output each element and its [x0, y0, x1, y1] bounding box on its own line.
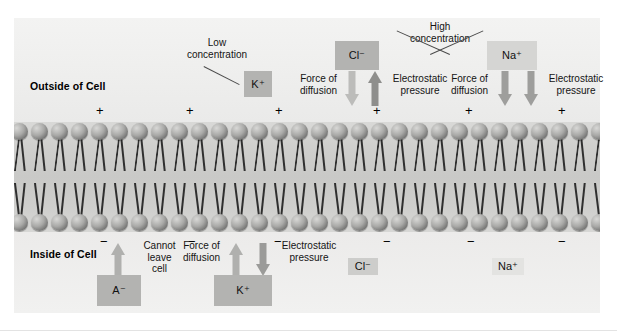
lipid-head	[51, 123, 68, 140]
arrow-electrostatic-pressure-potassium-inside	[255, 243, 271, 276]
lipid-tail	[394, 138, 400, 171]
lipid-tail	[20, 138, 25, 171]
lipid-tail	[194, 138, 200, 171]
lipid-tail	[300, 183, 305, 216]
lipid-tail	[274, 138, 280, 171]
lipid-tail	[514, 183, 520, 216]
phospholipid	[430, 122, 450, 177]
lipid-head	[411, 214, 428, 231]
phospholipid	[590, 122, 600, 177]
phospholipid-bilayer	[14, 122, 600, 232]
lipid-tail	[160, 138, 165, 171]
electrostatic-pressure-label-sodium: Electrostatic pressure	[540, 73, 612, 96]
lipid-tail	[500, 183, 505, 216]
lipid-tail	[394, 183, 400, 216]
lipid-tail	[120, 183, 125, 216]
lipid-tail	[360, 138, 365, 171]
lipid-head	[591, 123, 600, 140]
lipid-tail	[594, 138, 600, 171]
lipid-head	[391, 214, 408, 231]
phospholipid	[190, 177, 210, 232]
lipid-head	[151, 214, 168, 231]
phospholipid	[110, 122, 130, 177]
negative-charge-marker: −	[100, 237, 108, 247]
lipid-head	[351, 214, 368, 231]
lipid-tail	[434, 183, 440, 216]
phospholipid	[570, 177, 590, 232]
lipid-head	[271, 214, 288, 231]
phospholipid	[150, 122, 170, 177]
lipid-tail	[334, 138, 340, 171]
lipid-tail	[154, 183, 160, 216]
phospholipid	[330, 177, 350, 232]
lipid-head	[291, 123, 308, 140]
lipid-tail	[474, 138, 480, 171]
lipid-tail	[480, 138, 485, 171]
lipid-head	[351, 123, 368, 140]
phospholipid	[90, 177, 110, 232]
arrow-cannot-leave-cell-anion	[110, 243, 126, 276]
lipid-head	[571, 214, 588, 231]
phospholipid	[390, 122, 410, 177]
lipid-tail	[320, 138, 325, 171]
phospholipid	[190, 122, 210, 177]
phospholipid	[470, 177, 490, 232]
lipid-head	[71, 123, 88, 140]
lipid-tail	[560, 138, 565, 171]
phospholipid	[410, 177, 430, 232]
lipid-tail	[554, 138, 560, 171]
lipid-tail	[454, 183, 460, 216]
phospholipid	[490, 122, 510, 177]
lipid-head	[391, 123, 408, 140]
ion-box-potassium-inside: K⁺	[214, 275, 272, 306]
phospholipid	[270, 122, 290, 177]
lipid-tail	[534, 183, 540, 216]
lipid-tail	[214, 138, 220, 171]
lipid-tail	[580, 183, 585, 216]
diagram-panel: Outside of Cell Inside of Cell ++++++ −−…	[14, 18, 600, 313]
ion-box-chloride-outside: Cl⁻	[335, 41, 379, 70]
lipid-head	[471, 214, 488, 231]
phospholipid	[490, 177, 510, 232]
lipid-head	[291, 214, 308, 231]
lipid-tail	[494, 138, 500, 171]
phospholipid	[430, 177, 450, 232]
arrow-force-of-diffusion-potassium-inside	[228, 243, 244, 276]
lipid-tail	[334, 183, 340, 216]
lipid-head	[311, 214, 328, 231]
phospholipid	[30, 177, 50, 232]
lipid-head	[531, 123, 548, 140]
phospholipid	[390, 177, 410, 232]
inner-leaflet	[14, 177, 600, 232]
lipid-tail	[380, 138, 385, 171]
lipid-tail	[34, 183, 40, 216]
phospholipid	[350, 177, 370, 232]
lipid-tail	[374, 183, 380, 216]
lipid-head	[231, 123, 248, 140]
lipid-tail	[554, 183, 560, 216]
lipid-tail	[234, 138, 240, 171]
lipid-tail	[474, 183, 480, 216]
lipid-head	[251, 123, 268, 140]
lipid-head	[51, 214, 68, 231]
phospholipid	[14, 177, 30, 232]
lipid-tail	[494, 183, 500, 216]
lipid-tail	[314, 183, 320, 216]
ion-box-anion-inside: A⁻	[97, 275, 141, 306]
phospholipid	[210, 177, 230, 232]
phospholipid	[230, 177, 250, 232]
lipid-head	[411, 123, 428, 140]
lipid-tail	[94, 183, 100, 216]
phospholipid	[530, 122, 550, 177]
lipid-head	[111, 214, 128, 231]
lipid-head	[371, 123, 388, 140]
lipid-tail	[260, 183, 265, 216]
lipid-tail	[414, 138, 420, 171]
lipid-tail	[140, 138, 145, 171]
positive-charge-marker: +	[373, 106, 381, 116]
lipid-head	[211, 214, 228, 231]
force-of-diffusion-label-sodium: Force of diffusion	[442, 73, 497, 96]
lipid-tail	[214, 183, 220, 216]
lipid-tail	[114, 183, 120, 216]
lipid-tail	[54, 183, 60, 216]
